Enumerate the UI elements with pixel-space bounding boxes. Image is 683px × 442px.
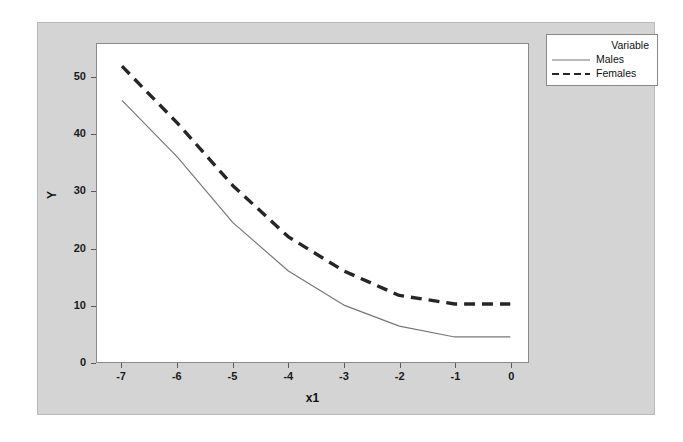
x-tick-label: -2 <box>385 371 415 382</box>
y-tick-label: 0 <box>52 357 86 368</box>
x-tick-label: 0 <box>496 371 526 382</box>
x-tick-mark <box>288 363 289 368</box>
x-tick-label: -4 <box>273 371 303 382</box>
legend-item-label: Females <box>596 67 636 80</box>
y-tick-label: 20 <box>52 243 86 254</box>
y-tick-mark <box>91 306 96 307</box>
x-tick-label: -7 <box>106 371 136 382</box>
dashed-line-swatch <box>551 69 591 79</box>
x-tick-label: -6 <box>162 371 192 382</box>
x-tick-label: -1 <box>440 371 470 382</box>
series-line-females <box>122 66 510 304</box>
x-tick-label: -3 <box>329 371 359 382</box>
y-tick-mark <box>91 191 96 192</box>
y-tick-mark <box>91 249 96 250</box>
legend-item-label: Males <box>596 53 624 66</box>
y-tick-mark <box>91 77 96 78</box>
x-tick-mark <box>233 363 234 368</box>
chart-panel: 01020304050 -7-6-5-4-3-2-10 x1 Y Variabl… <box>37 22 655 415</box>
x-tick-mark <box>511 363 512 368</box>
plot-svg <box>97 44 528 362</box>
x-tick-mark <box>400 363 401 368</box>
y-tick-mark <box>91 363 96 364</box>
y-tick-label: 50 <box>52 71 86 82</box>
y-tick-label: 40 <box>52 128 86 139</box>
x-tick-mark <box>177 363 178 368</box>
x-tick-mark <box>455 363 456 368</box>
solid-line-swatch <box>551 55 591 65</box>
plot-area <box>96 43 529 363</box>
figure-root: 01020304050 -7-6-5-4-3-2-10 x1 Y Variabl… <box>0 0 683 442</box>
x-tick-label: -5 <box>218 371 248 382</box>
legend-item-males[interactable]: Males <box>551 53 651 66</box>
legend: Variable MalesFemales <box>546 34 658 86</box>
legend-item-females[interactable]: Females <box>551 67 651 80</box>
y-tick-label: 10 <box>52 300 86 311</box>
y-tick-mark <box>91 134 96 135</box>
x-tick-mark <box>344 363 345 368</box>
x-axis-title: x1 <box>96 391 529 405</box>
y-axis-title: Y <box>45 175 59 215</box>
legend-entries: MalesFemales <box>551 53 651 80</box>
series-line-males <box>122 100 510 337</box>
series-layer <box>122 66 510 337</box>
x-tick-mark <box>121 363 122 368</box>
legend-title: Variable <box>551 39 651 52</box>
